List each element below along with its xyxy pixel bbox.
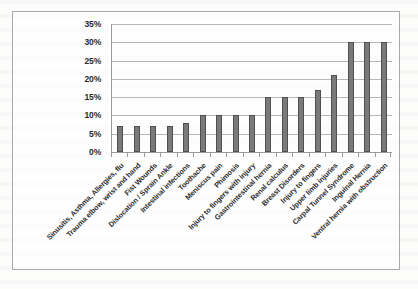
x-axis-tick [127, 153, 143, 158]
x-axis-tick [210, 153, 226, 158]
y-axis-tick-label: 25% [85, 56, 101, 66]
bar-slot [211, 24, 227, 152]
y-axis: 35%30%25%20%15%10%5%0% [13, 24, 105, 152]
bar-slot [310, 24, 326, 152]
plot-area [111, 24, 392, 153]
x-axis-tick [325, 153, 341, 158]
x-axis-tick [342, 153, 358, 158]
bar [117, 126, 123, 152]
bar-slot [326, 24, 342, 152]
x-axis-tick [243, 153, 259, 158]
chart-frame: 35%30%25%20%15%10%5%0% Sinusitis, Asthma… [12, 11, 400, 270]
bar [216, 115, 222, 152]
bar-slot [145, 24, 161, 152]
x-axis-tick [144, 153, 160, 158]
x-axis-tick [111, 153, 127, 158]
bar [183, 123, 189, 152]
x-axis-tick [259, 153, 275, 158]
x-axis-tick [292, 153, 308, 158]
x-axis-labels: Sinusitis, Asthma, Allergies, fluTrauma … [111, 159, 391, 269]
y-axis-tick-label: 15% [85, 92, 101, 102]
bar [315, 90, 321, 152]
bar-slot [128, 24, 144, 152]
bar-slot [376, 24, 392, 152]
bar [348, 42, 354, 152]
x-axis-label-cell: Ventral hernia with obstruction [375, 159, 391, 269]
x-axis-tick [160, 153, 176, 158]
x-axis-tick [358, 153, 374, 158]
bar-slot [161, 24, 177, 152]
x-axis-tick [309, 153, 325, 158]
bar-slot [244, 24, 260, 152]
y-axis-tick-label: 0% [89, 147, 101, 157]
x-axis-tick [177, 153, 193, 158]
bar [167, 126, 173, 152]
y-axis-tick-label: 30% [85, 37, 101, 47]
y-axis-tick-label: 5% [89, 129, 101, 139]
x-axis-tick [375, 153, 391, 158]
x-axis-tick [276, 153, 292, 158]
bar [381, 42, 387, 152]
bar [150, 126, 156, 152]
bar-slot [277, 24, 293, 152]
x-axis-tick [193, 153, 209, 158]
y-axis-tick-label: 10% [85, 110, 101, 120]
x-axis-ticks [111, 153, 391, 158]
bar-slot [260, 24, 276, 152]
bar-slot [293, 24, 309, 152]
bar-slot [343, 24, 359, 152]
bar [364, 42, 370, 152]
bar [200, 115, 206, 152]
y-axis-tick-label: 20% [85, 74, 101, 84]
y-axis-tick-label: 35% [85, 19, 101, 29]
bar-slot [178, 24, 194, 152]
bar [249, 115, 255, 152]
bar-series [112, 24, 392, 152]
x-axis-category-label: Sinusitis, Asthma, Allergies, flu [45, 161, 126, 242]
bar [233, 115, 239, 152]
bar-slot [359, 24, 375, 152]
bar [265, 97, 271, 152]
bar-slot [227, 24, 243, 152]
bar-slot [112, 24, 128, 152]
bar [331, 75, 337, 152]
x-axis-tick [226, 153, 242, 158]
bar [134, 126, 140, 152]
bar-slot [194, 24, 210, 152]
bar [282, 97, 288, 152]
bar [298, 97, 304, 152]
chart-plot-wrapper: 35%30%25%20%15%10%5%0% Sinusitis, Asthma… [13, 12, 401, 271]
